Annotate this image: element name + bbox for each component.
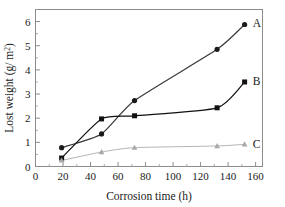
data-point-b-3 [215, 105, 220, 110]
x-tick-label: 80 [140, 170, 152, 182]
x-tick-label: 40 [85, 170, 97, 182]
series-label-c: C [253, 138, 261, 150]
x-axis-tick-labels: 020406080100120140160 [33, 170, 265, 182]
data-point-a-4 [242, 22, 247, 27]
x-tick-label: 100 [165, 170, 182, 182]
series-label-a: A [253, 17, 262, 29]
y-tick-label: 4 [25, 64, 31, 76]
y-tick-label: 3 [25, 88, 31, 100]
y-tick-label: 0 [25, 161, 31, 173]
data-point-b-4 [242, 79, 247, 84]
y-axis-title-suffix: ) [3, 43, 16, 47]
series-labels: ABC [253, 17, 262, 150]
x-tick-label: 140 [220, 170, 237, 182]
x-tick-label: 120 [192, 170, 209, 182]
series-label-b: B [253, 75, 261, 87]
y-tick-label: 5 [25, 40, 31, 52]
x-axis-major-ticks [36, 162, 256, 167]
svg-text:Lost weight (g/ m2): Lost weight (g/ m2) [3, 43, 17, 133]
x-tick-label: 160 [247, 170, 264, 182]
plot-frame [36, 10, 263, 167]
data-point-b-1 [99, 116, 104, 121]
y-axis-title-prefix: Lost weight (g/ m [3, 51, 16, 133]
data-point-a-0 [59, 145, 64, 150]
data-point-a-1 [99, 131, 104, 136]
chart-figure: 020406080100120140160 0123456 ABC Corros… [0, 0, 285, 207]
y-axis-major-ticks [36, 22, 41, 167]
series-lines [62, 24, 245, 160]
data-point-b-2 [132, 113, 137, 118]
y-tick-label: 2 [25, 112, 31, 124]
series-markers [59, 22, 248, 163]
data-point-c-4 [242, 141, 248, 146]
y-axis-title: Lost weight (g/ m2) [3, 43, 17, 133]
data-point-a-2 [132, 98, 137, 103]
x-axis-title: Corrosion time (h) [106, 190, 192, 203]
data-point-a-3 [215, 47, 220, 52]
y-tick-label: 6 [25, 16, 31, 28]
y-tick-label: 1 [25, 136, 31, 148]
x-tick-label: 0 [33, 170, 39, 182]
chart-plot-area: 020406080100120140160 0123456 ABC Corros… [0, 0, 285, 207]
x-tick-label: 20 [58, 170, 70, 182]
x-tick-label: 60 [113, 170, 125, 182]
y-axis-tick-labels: 0123456 [25, 16, 31, 173]
